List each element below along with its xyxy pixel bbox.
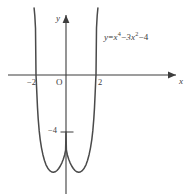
x-axis-label: x bbox=[179, 77, 183, 86]
origin-label: O bbox=[56, 78, 63, 87]
equation-label: y=x4−3x2−4 bbox=[104, 33, 148, 42]
equation-constant: 4 bbox=[144, 32, 149, 42]
y-axis-label: y bbox=[56, 14, 60, 23]
x-tick-label-2: 2 bbox=[98, 78, 102, 87]
coordinate-plot bbox=[0, 0, 196, 194]
x-tick-label-minus2: −2 bbox=[27, 78, 36, 87]
y-tick-label-minus4: −4 bbox=[48, 126, 57, 135]
x-axis-arrowhead bbox=[168, 72, 176, 79]
y-axis bbox=[63, 15, 70, 194]
graph-figure: ∙ ∙ ∙ y x O −2 2 −4 y=x4−3x2−4 bbox=[0, 0, 196, 194]
equation-term2-base: 3x bbox=[126, 32, 135, 42]
y-axis-arrowhead bbox=[63, 15, 70, 23]
